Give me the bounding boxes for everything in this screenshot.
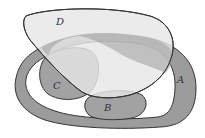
label-c: C	[53, 80, 61, 91]
label-d: D	[55, 16, 64, 27]
label-b: B	[103, 102, 111, 113]
venn-diagram: D C B A	[0, 0, 205, 138]
label-a: A	[176, 74, 184, 85]
